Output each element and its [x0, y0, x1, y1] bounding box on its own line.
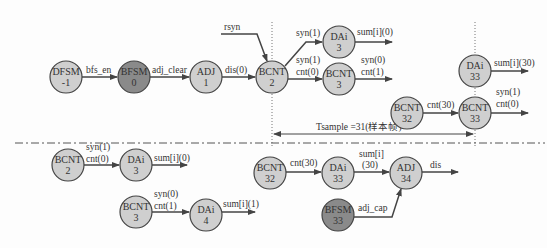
svg-text:BCNT: BCNT	[123, 201, 150, 212]
label-rsyn: rsyn	[224, 22, 241, 32]
label-syn1-b: syn(1)	[296, 55, 320, 66]
node-b-adj-34: ADJ 34	[390, 157, 422, 189]
label-cnt1: cnt(1)	[361, 67, 384, 78]
diagram-svg: Tsample =31(样本帧) bfs_en adj_clear dis(0)…	[0, 0, 547, 248]
label-adj-clear: adj_clear	[152, 65, 188, 75]
svg-text:2: 2	[66, 165, 71, 176]
svg-text:DAi: DAi	[329, 162, 346, 173]
svg-text:3: 3	[337, 42, 342, 53]
node-b-bfsm-33: BFSM 33	[322, 199, 354, 231]
label-cnt30: cnt(30)	[427, 100, 454, 111]
node-bfsm-0: BFSM 0	[118, 61, 150, 93]
label-b-adj-cap: adj_cap	[358, 203, 388, 213]
svg-text:33: 33	[333, 173, 343, 184]
label-sum-i-30: sum[i](30)	[494, 58, 535, 69]
svg-text:ADJ: ADJ	[197, 66, 215, 77]
label-bfs-en: bfs_en	[86, 65, 112, 75]
svg-text:BFSM: BFSM	[121, 66, 148, 77]
svg-text:0: 0	[132, 77, 137, 88]
node-bcnt-3: BCNT 3	[323, 63, 355, 95]
node-bcnt-32: BCNT 32	[391, 97, 423, 129]
label-syn1-c: syn(1)	[496, 87, 520, 98]
svg-text:32: 32	[265, 173, 275, 184]
node-b-bcnt-3: BCNT 3	[120, 196, 152, 228]
svg-text:2: 2	[270, 77, 275, 88]
edge-rsyn	[221, 34, 267, 61]
node-b-dai-3: DAi 3	[120, 149, 152, 181]
label-b-cnt0: cnt(0)	[86, 154, 109, 165]
svg-text:DFSM: DFSM	[52, 66, 79, 77]
label-b-cnt1: cnt(1)	[154, 201, 177, 212]
svg-text:3: 3	[134, 212, 139, 223]
svg-text:4: 4	[204, 215, 209, 226]
svg-text:DAi: DAi	[466, 60, 483, 71]
state-diagram: Tsample =31(样本帧) bfs_en adj_clear dis(0)…	[0, 0, 547, 248]
svg-text:34: 34	[401, 173, 411, 184]
svg-text:-1: -1	[62, 77, 70, 88]
node-dfsm--1: DFSM -1	[50, 61, 82, 93]
svg-text:DAi: DAi	[330, 31, 347, 42]
svg-text:DAi: DAi	[197, 204, 214, 215]
svg-text:BFSM: BFSM	[325, 204, 352, 215]
node-b-dai-33: DAi 33	[322, 157, 354, 189]
svg-text:3: 3	[337, 79, 342, 90]
label-b-sum-i-line1: sum[i]	[359, 149, 384, 159]
svg-text:BCNT: BCNT	[55, 154, 82, 165]
node-dai-3: DAi 3	[323, 26, 355, 58]
svg-text:DAi: DAi	[127, 154, 144, 165]
label-b-cnt30: cnt(30)	[290, 158, 317, 169]
svg-text:1: 1	[204, 77, 209, 88]
node-dai-33: DAi 33	[459, 55, 491, 87]
label-b-syn1: syn(1)	[86, 142, 110, 153]
label-b-sum-i-0: sum[i](0)	[154, 153, 190, 164]
label-syn0: syn(0)	[361, 55, 385, 66]
svg-text:32: 32	[402, 113, 412, 124]
tsample-label: Tsample =31(样本帧)	[316, 121, 402, 133]
label-cnt0-a: cnt(0)	[296, 67, 319, 78]
label-b-dis: dis	[430, 160, 441, 170]
node-bcnt-33: BCNT 33	[459, 97, 491, 129]
svg-text:BCNT: BCNT	[259, 66, 286, 77]
svg-text:33: 33	[470, 113, 480, 124]
node-b-dai-4: DAi 4	[190, 199, 222, 231]
label-sum-i-0: sum[i](0)	[357, 27, 393, 38]
node-adj-1: ADJ 1	[190, 61, 222, 93]
label-cnt0-b: cnt(0)	[496, 99, 519, 110]
label-dis0: dis(0)	[225, 65, 247, 76]
svg-text:33: 33	[333, 215, 343, 226]
label-b-sum-i-line2: (30)	[362, 160, 378, 171]
svg-text:BCNT: BCNT	[326, 68, 353, 79]
node-b-bcnt-2: BCNT 2	[52, 149, 84, 181]
svg-text:3: 3	[134, 165, 139, 176]
svg-text:BCNT: BCNT	[462, 102, 489, 113]
label-b-syn0: syn(0)	[154, 189, 178, 200]
svg-text:BCNT: BCNT	[257, 162, 284, 173]
node-bcnt-2: BCNT 2	[256, 61, 288, 93]
node-b-bcnt-32: BCNT 32	[254, 157, 286, 189]
svg-text:ADJ: ADJ	[397, 162, 415, 173]
svg-text:33: 33	[470, 71, 480, 82]
label-syn1-a: syn(1)	[296, 28, 320, 39]
svg-text:BCNT: BCNT	[394, 102, 421, 113]
label-b-sum-i-1: sum[i](1)	[223, 199, 259, 210]
